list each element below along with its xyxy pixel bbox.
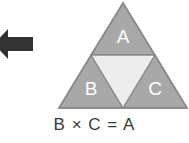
- diagram-canvas: A B C B × C = A: [0, 0, 189, 143]
- triangle-label-c: C: [148, 78, 162, 99]
- equation-text: B × C = A: [0, 114, 189, 136]
- triangle-label-b: B: [85, 78, 98, 99]
- triangle-label-a: A: [117, 26, 130, 47]
- triangle-svg: A B C: [57, 0, 189, 112]
- arrow-left-icon: [0, 28, 36, 60]
- subdivided-triangle: A B C: [57, 0, 189, 112]
- arrow-left-container: [0, 28, 36, 60]
